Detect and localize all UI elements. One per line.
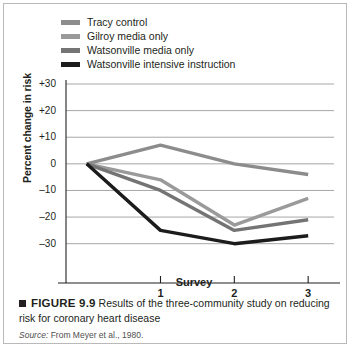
source-label: Source:	[19, 330, 48, 340]
source-text: From Meyer et al., 1980.	[51, 330, 144, 340]
figure-caption: FIGURE 9.9 Results of the three-communit…	[19, 296, 335, 341]
x-axis-label: Survey	[64, 276, 324, 288]
square-bullet-icon	[19, 300, 26, 307]
figure-number: FIGURE 9.9	[31, 297, 96, 309]
chart-plot-area: Percent change in risk +30+20+100–10–20–…	[4, 4, 348, 345]
figure-container: Tracy control Gilroy media only Watsonvi…	[3, 3, 347, 344]
chart-canvas	[4, 4, 348, 345]
